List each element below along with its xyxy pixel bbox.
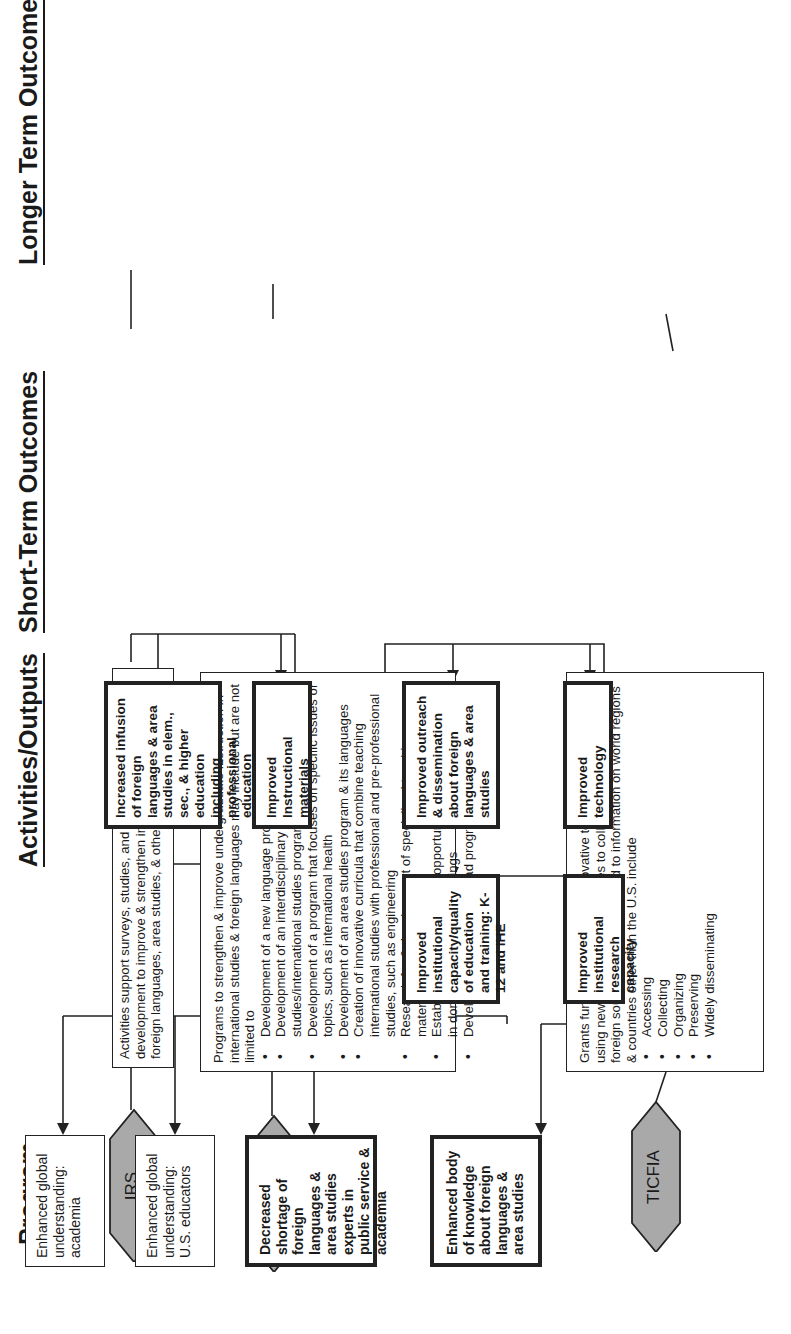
- longer-term-outcome-2: Enhanced global understanding: U.S. educ…: [135, 1135, 215, 1267]
- short-term-outcome-4: Improved technology: [563, 681, 613, 829]
- intermediate-outcome-1: Improved institutional capacity/quality …: [402, 874, 500, 1004]
- longer-term-outcome-4: Enhanced body of knowledge about foreign…: [430, 1135, 542, 1267]
- ticfia-item: Accessing: [639, 681, 655, 1063]
- short-term-outcome-3: Improved outreach & dissemination about …: [402, 681, 500, 829]
- longer-term-outcome-1: Enhanced global understanding: academia: [25, 1135, 105, 1267]
- short-term-outcome-1: Increased infusion of foreign languages …: [104, 681, 222, 829]
- program-connectors: [0, 0, 791, 1334]
- uisfl-item: Creation of innovative curricula that co…: [351, 681, 398, 1063]
- short-term-outcome-2: Improved Instructional materials: [252, 681, 312, 829]
- ticfia-item: Widely disseminating: [702, 681, 718, 1063]
- logic-model-diagram: Program Activities/Outputs Short-Term Ou…: [0, 0, 791, 1334]
- ticfia-item: Organizing: [671, 681, 687, 1063]
- uisfl-item: Development of an area studies program &…: [336, 681, 352, 1063]
- ticfia-item: Preserving: [686, 681, 702, 1063]
- ticfia-item: Collecting: [655, 681, 671, 1063]
- intermediate-outcome-2: Improved institutional research capacity: [563, 874, 625, 1004]
- longer-term-outcome-3: Decreased shortage of foreign languages …: [245, 1135, 377, 1267]
